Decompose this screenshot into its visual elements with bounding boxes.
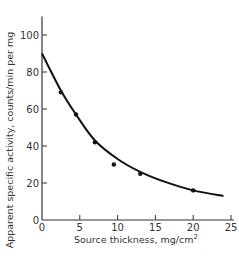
y-tick-label: 0 (33, 215, 39, 226)
data-point (191, 188, 195, 192)
data-point (59, 90, 63, 94)
data-points (59, 90, 196, 192)
data-point (112, 162, 116, 166)
chart: 0510152025020406080100 Apparent specific… (0, 0, 239, 259)
y-axis-title: Apparent specific activity, counts/min p… (4, 32, 15, 249)
y-tick-label: 20 (26, 178, 39, 189)
x-axis-title: Source thickness, mg/cm2 (74, 233, 198, 245)
x-tick-label: 25 (225, 222, 238, 233)
x-tick-label: 5 (77, 222, 83, 233)
data-point (74, 112, 78, 116)
y-tick-label: 100 (20, 30, 39, 41)
tick-marks: 0510152025020406080100 (20, 30, 237, 233)
y-tick-label: 80 (26, 67, 39, 78)
y-tick-label: 40 (26, 141, 39, 152)
x-tick-label: 20 (187, 222, 200, 233)
data-point (138, 172, 142, 176)
axes (42, 17, 234, 221)
y-tick-label: 60 (26, 104, 39, 115)
x-tick-label: 15 (149, 222, 162, 233)
x-tick-label: 0 (39, 222, 45, 233)
data-point (93, 140, 97, 144)
fitted-curve (42, 54, 223, 196)
x-tick-label: 10 (111, 222, 124, 233)
